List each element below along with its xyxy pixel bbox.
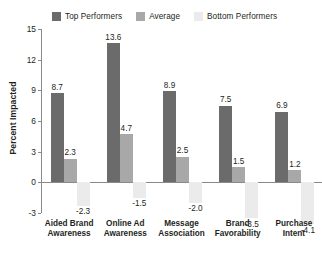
y-tick-label: 0 <box>31 177 36 187</box>
y-tick-label: 3 <box>31 147 36 157</box>
y-tick-label: -3 <box>29 208 36 218</box>
bar-group: 8.92.5-2.0 <box>163 29 202 213</box>
legend-swatch-icon <box>194 12 203 21</box>
y-tick-label: 9 <box>31 85 36 95</box>
y-tick-label: 6 <box>31 116 36 126</box>
bar-value-label: 2.3 <box>57 148 83 157</box>
y-tick-mark <box>38 182 41 183</box>
legend-label: Bottom Performers <box>207 12 277 21</box>
bar <box>107 43 120 182</box>
y-tick-label: 12 <box>27 55 36 65</box>
bar <box>163 91 176 182</box>
bar-value-label: 7.5 <box>213 95 239 104</box>
x-axis-category-label: BrandFavorability <box>210 219 266 239</box>
bar-group: 8.72.3-2.3 <box>51 29 90 213</box>
bar-group: 6.91.2-4.1 <box>275 29 314 213</box>
legend-item-bottom-performers: Bottom Performers <box>194 12 277 21</box>
bar-chart: Top Performers Average Bottom Performers… <box>0 0 322 262</box>
bar <box>77 182 90 206</box>
bar <box>245 182 258 218</box>
x-axis-category-label: Aided BrandAwareness <box>41 219 97 239</box>
legend-label: Top Performers <box>65 12 122 21</box>
bar-value-label: -2.3 <box>70 207 96 216</box>
legend-swatch-icon <box>136 12 145 21</box>
bar <box>219 106 232 183</box>
bar <box>288 170 301 182</box>
bar-value-label: -2.0 <box>183 204 209 213</box>
bar-value-label: 1.5 <box>226 157 252 166</box>
bar-value-label: 13.6 <box>100 33 126 42</box>
legend-item-average: Average <box>136 12 180 21</box>
x-axis-category-label: Online AdAwareness <box>97 219 153 239</box>
y-tick-mark <box>38 29 41 30</box>
bar-value-label: 4.7 <box>113 124 139 133</box>
bar <box>275 112 288 183</box>
y-tick-mark <box>38 121 41 122</box>
y-tick-label: 15 <box>27 24 36 34</box>
y-axis-title: Percent Impacted <box>8 58 18 178</box>
bar <box>176 157 189 183</box>
bar <box>51 93 64 182</box>
legend-swatch-icon <box>52 12 61 21</box>
plot-area: -303691215 8.72.3-2.313.64.7-1.58.92.5-2… <box>41 29 322 213</box>
x-axis-category-label: PurchaseIntent <box>266 219 322 239</box>
x-axis-category-label: MessageAssociation <box>153 219 209 239</box>
bar <box>232 167 245 182</box>
bar-group: 13.64.7-1.5 <box>107 29 146 213</box>
bar-group: 7.51.5-3.5 <box>219 29 258 213</box>
legend-label: Average <box>149 12 180 21</box>
y-tick-mark <box>38 152 41 153</box>
chart-legend: Top Performers Average Bottom Performers <box>52 9 314 23</box>
bar-value-label: 8.9 <box>157 81 183 90</box>
bar <box>189 182 202 202</box>
y-tick-mark <box>38 60 41 61</box>
y-tick-mark <box>38 90 41 91</box>
bar-value-label: 1.2 <box>282 160 308 169</box>
bar-value-label: -1.5 <box>126 199 152 208</box>
bar <box>120 134 133 182</box>
y-tick-mark <box>38 213 41 214</box>
legend-item-top-performers: Top Performers <box>52 12 122 21</box>
bar <box>64 159 77 183</box>
bar <box>133 182 146 197</box>
bar-value-label: 8.7 <box>44 83 70 92</box>
bar-value-label: 6.9 <box>269 101 295 110</box>
y-axis-line <box>41 29 42 213</box>
bar <box>301 182 314 224</box>
bar-value-label: 2.5 <box>170 146 196 155</box>
